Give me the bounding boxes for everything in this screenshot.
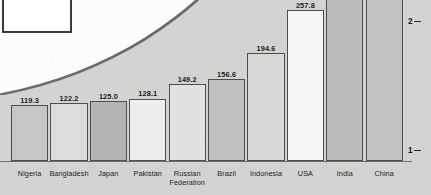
y-axis-tick-1-mark xyxy=(414,150,421,151)
bar-japan xyxy=(90,101,127,161)
bar-value-nigeria: 119.3 xyxy=(8,96,51,105)
bar-value-japan: 125.0 xyxy=(87,92,130,101)
bar-china xyxy=(366,0,403,161)
plot-area: 119.3122.2125.0128.1149.2156.6194.6257.8… xyxy=(0,0,431,195)
bar-value-pakistan: 128.1 xyxy=(126,89,169,98)
bar-value-brazil: 156.6 xyxy=(205,70,248,79)
y-axis-tick-2: 2 xyxy=(408,17,421,26)
bar-usa xyxy=(287,10,324,161)
y-axis-tick-1: 1 xyxy=(408,146,421,155)
bar-russian-federation xyxy=(169,84,206,161)
y-axis-tick-1-label: 1 xyxy=(408,146,413,155)
bar-value-bangladesh: 122.2 xyxy=(47,94,90,103)
bar-nigeria xyxy=(11,105,48,161)
bar-bangladesh xyxy=(50,103,87,161)
bar-value-russian-federation: 149.2 xyxy=(166,75,209,84)
category-label-strip xyxy=(0,162,431,195)
bar-pakistan xyxy=(129,99,166,161)
bar-value-indonesia: 194.6 xyxy=(244,44,287,53)
bar-indonesia xyxy=(247,53,284,161)
bar-brazil xyxy=(208,79,245,161)
bar-value-usa: 257.8 xyxy=(284,1,327,10)
y-axis-tick-2-mark xyxy=(414,21,421,22)
y-axis-right: 2 1 xyxy=(401,0,431,195)
y-axis-tick-2-label: 2 xyxy=(408,17,413,26)
bar-india xyxy=(326,0,363,161)
chart-screenshot: 119.3122.2125.0128.1149.2156.6194.6257.8… xyxy=(0,0,431,195)
